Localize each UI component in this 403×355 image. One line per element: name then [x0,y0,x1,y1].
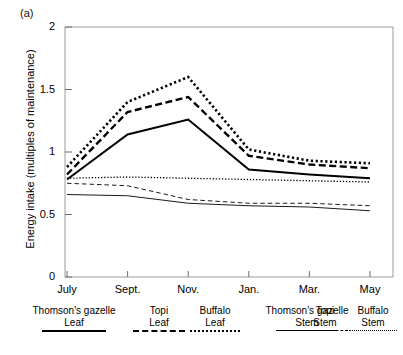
series-line [67,77,370,167]
series-line [67,195,370,211]
x-tick-label: Nov. [177,283,199,295]
x-axis-ticks [67,271,370,277]
legend-species-label: Buffalo [345,305,401,317]
chart-legend: Thomson's gazelleLeafTopiLeafBuffaloLeaf… [0,305,403,351]
x-tick-label: Jan. [238,283,259,295]
x-tick-label: July [57,283,77,295]
legend-line-swatch [190,330,240,332]
figure-panel-a: (a) Energy intake (multiples of maintena… [0,0,403,355]
legend-item: TopiLeaf [133,305,185,332]
legend-species-label: Thomson's gazelle [4,305,144,317]
x-tick-label: Sept. [115,283,141,295]
legend-line-swatch [302,330,348,331]
series-line [67,97,370,175]
x-tick-label: Mar. [299,283,320,295]
series-line [67,183,370,206]
data-series-group [67,77,370,211]
legend-line-swatch [133,330,185,332]
y-axis-ticks [65,27,72,277]
legend-line-swatch [349,330,397,331]
legend-plantpart-label: Leaf [4,317,144,329]
legend-item: TopiStem [300,305,350,331]
x-axis-tick-labels: JulySept.Nov.Jan.Mar.May [0,283,403,299]
x-tick-label: May [360,283,381,295]
legend-species-label: Topi [300,305,350,317]
legend-plantpart-label: Stem [345,317,401,329]
legend-species-label: Topi [133,305,185,317]
plot-area [0,0,403,355]
legend-plantpart-label: Leaf [133,317,185,329]
legend-plantpart-label: Stem [300,317,350,329]
legend-line-swatch [42,330,106,332]
legend-item: Thomson's gazelleLeaf [4,305,144,332]
legend-item: BuffaloStem [345,305,401,331]
series-line [67,177,370,182]
